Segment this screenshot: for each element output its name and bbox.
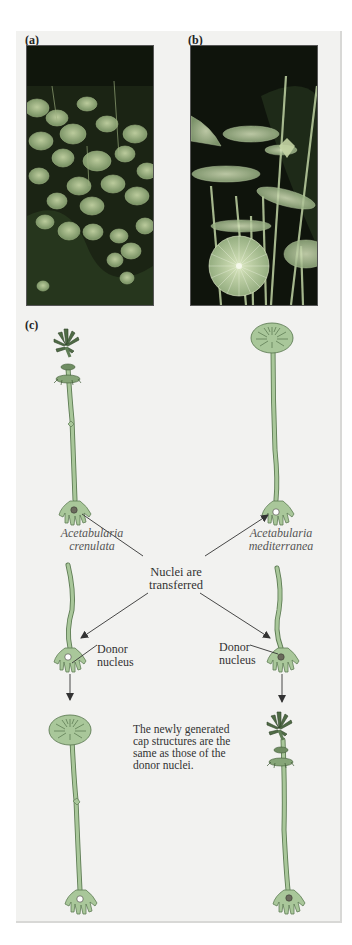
arrow-to-left-recipient xyxy=(81,593,148,638)
donor-left-line2: nucleus xyxy=(97,656,157,669)
plant-crenulata-original xyxy=(54,329,91,525)
conclusion-line3: same as those of the xyxy=(133,747,253,759)
label-donor-nucleus-left: Donor nucleus xyxy=(97,643,157,669)
center-label-line2: transferred xyxy=(134,579,218,592)
plant-mediterranea-original xyxy=(251,323,294,525)
plant-left-regenerated xyxy=(49,715,97,914)
nucleus-transfer-diagram xyxy=(0,0,352,945)
conclusion-line1: The newly generated xyxy=(133,723,253,735)
label-acetabularia-mediterranea: Acetabularia mediterranea xyxy=(236,527,326,553)
conclusion-text: The newly generated cap structures are t… xyxy=(133,723,253,771)
arrow-to-right-recipient xyxy=(200,593,270,638)
label-acetabularia-crenulata: Acetabularia crenulata xyxy=(42,527,142,553)
label-donor-nucleus-right: Donor nucleus xyxy=(219,641,279,667)
donor-right-line2: nucleus xyxy=(219,654,279,667)
label-nuclei-transferred: Nuclei are transferred xyxy=(134,566,218,592)
species-right-line2: mediterranea xyxy=(236,540,326,553)
plant-right-regenerated xyxy=(267,712,305,914)
conclusion-line4: donor nuclei. xyxy=(133,759,253,771)
conclusion-line2: cap structures are the xyxy=(133,735,253,747)
species-left-line2: crenulata xyxy=(42,540,142,553)
